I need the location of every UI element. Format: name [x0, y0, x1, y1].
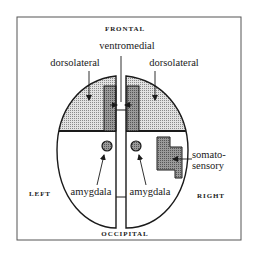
left-hemisphere [50, 70, 120, 228]
midline-connectors [116, 110, 126, 197]
somatosensory-label-line2: sensory [192, 160, 225, 171]
amygdala-right-pointer [139, 155, 146, 185]
brain-regions-diagram: FRONTAL ventromedial dorsolateral dorsol… [0, 0, 253, 261]
occipital-label: OCCIPITAL [101, 230, 148, 238]
right-amygdala-region [131, 141, 141, 151]
ventromedial-label: ventromedial [99, 40, 154, 51]
somatosensory-label-line1: somato- [192, 149, 226, 160]
amygdala-left-label: amygdala [71, 186, 112, 197]
frontal-label: FRONTAL [105, 25, 145, 33]
dorsolateral-left-label: dorsolateral [50, 57, 100, 68]
left-ventromedial-region [104, 86, 116, 131]
amygdala-right-label: amygdala [130, 186, 171, 197]
left-label: LEFT [29, 190, 51, 198]
right-hemisphere [122, 70, 192, 228]
right-ventromedial-region [127, 86, 139, 131]
left-amygdala-region [102, 141, 112, 151]
dorsolateral-right-label: dorsolateral [149, 57, 199, 68]
somatosensory-region [157, 137, 182, 178]
right-label: RIGHT [197, 192, 225, 200]
amygdala-left-pointer [97, 155, 104, 185]
